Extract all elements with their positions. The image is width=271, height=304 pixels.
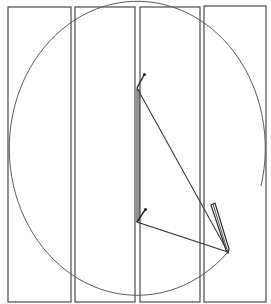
pencil-icon — [211, 203, 229, 253]
panel-3 — [140, 7, 200, 302]
panel-4 — [204, 6, 266, 302]
panel-2 — [75, 7, 135, 302]
ellipse-construction-diagram — [0, 0, 271, 304]
string-loop — [137, 88, 228, 252]
panel-1 — [8, 7, 71, 302]
pin-top-icon — [137, 73, 146, 88]
